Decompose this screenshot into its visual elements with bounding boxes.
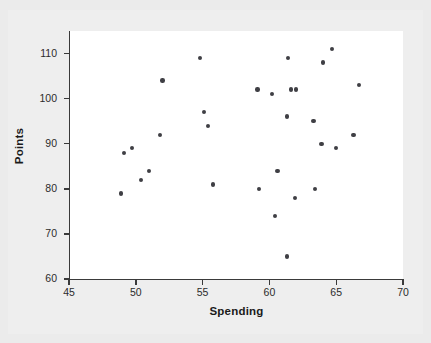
data-point [313, 187, 317, 191]
x-tick-label: 50 [121, 287, 151, 298]
scatter-plot-figure: 60708090100110 455055606570 Spending Poi… [0, 0, 431, 343]
x-tick-label: 60 [254, 287, 284, 298]
x-tick-mark [402, 280, 403, 285]
data-point [311, 119, 315, 123]
y-tick-label: 100 [31, 93, 57, 103]
y-tick-label: 90 [31, 138, 57, 148]
data-point [119, 191, 123, 195]
data-point [122, 151, 126, 155]
x-tick-label: 55 [188, 287, 218, 298]
y-tick-label: 110 [31, 48, 57, 58]
data-point [255, 87, 259, 91]
data-point [206, 124, 210, 128]
plot-panel [69, 31, 403, 279]
data-point [319, 142, 323, 146]
y-axis-title: Points [13, 111, 25, 181]
x-tick-mark [68, 280, 69, 285]
y-tick-mark [64, 143, 69, 144]
data-point [211, 182, 215, 186]
y-tick-mark [64, 98, 69, 99]
x-tick-mark [336, 280, 337, 285]
x-tick-mark [135, 280, 136, 285]
y-tick-label: 80 [31, 183, 57, 193]
data-point [275, 169, 279, 173]
x-axis-title: Spending [69, 305, 404, 317]
y-tick-mark [64, 233, 69, 234]
data-point [257, 187, 261, 191]
data-point [285, 254, 289, 258]
x-tick-label: 65 [321, 287, 351, 298]
data-point [294, 87, 298, 91]
y-tick-mark [64, 53, 69, 54]
data-point [158, 133, 162, 137]
y-tick-label: 70 [31, 228, 57, 238]
data-point [160, 78, 164, 82]
y-tick-mark [64, 188, 69, 189]
x-tick-label: 70 [388, 287, 418, 298]
x-tick-mark [269, 280, 270, 285]
data-point [289, 87, 293, 91]
data-point [285, 114, 289, 118]
x-tick-mark [202, 280, 203, 285]
y-tick-label: 60 [31, 273, 57, 283]
data-point [273, 214, 277, 218]
data-point [321, 60, 325, 64]
data-point [293, 196, 297, 200]
x-axis-line [69, 279, 404, 280]
data-point [351, 133, 355, 137]
x-tick-label: 45 [54, 287, 84, 298]
y-axis-line [69, 31, 70, 280]
